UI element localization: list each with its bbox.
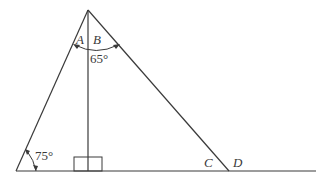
label-left-angle-value: 75°: [35, 148, 53, 163]
label-point-d: D: [232, 155, 243, 170]
diagram-svg: A B 65° 75° C D: [0, 0, 330, 181]
label-angle-b: B: [93, 32, 101, 47]
label-apex-angle-value: 65°: [90, 51, 108, 66]
label-angle-a: A: [75, 32, 84, 47]
label-point-c: C: [204, 155, 213, 170]
geometry-diagram: A B 65° 75° C D: [0, 0, 330, 181]
right-side: [88, 10, 229, 171]
